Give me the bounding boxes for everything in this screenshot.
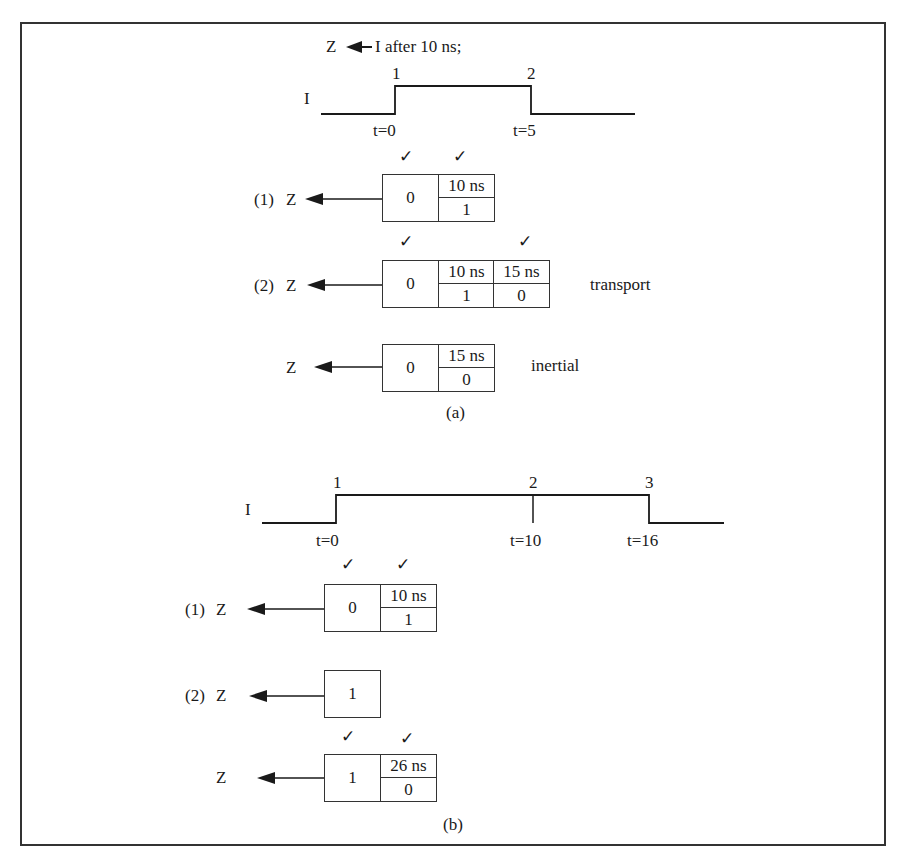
event-label-a2: 2 (527, 65, 536, 82)
transaction: 10 ns 1 (438, 260, 495, 308)
driver-prefix: (2) (254, 277, 274, 294)
driver-current-value: 1 (324, 754, 381, 802)
transaction: 15 ns 0 (438, 344, 495, 392)
driver-target: Z (286, 359, 296, 376)
transaction-value: 1 (439, 198, 494, 221)
statement-rhs: I after 10 ns; (375, 38, 461, 55)
check-icon: ✓ (341, 556, 355, 573)
driver-target: Z (216, 687, 226, 704)
event-label-b1: 1 (333, 474, 342, 491)
event-label-b3: 3 (645, 474, 654, 491)
driver-target: Z (286, 277, 296, 294)
caption-a: (a) (446, 404, 465, 421)
driver-current-value: 0 (382, 344, 439, 392)
event-time-b2: t=10 (510, 532, 541, 549)
check-icon: ✓ (399, 148, 413, 165)
diagram-lines (0, 0, 901, 862)
transaction: 10 ns 1 (438, 174, 495, 222)
transaction: 10 ns 1 (380, 584, 437, 632)
driver-current-value: 1 (324, 670, 381, 718)
transaction-time: 26 ns (381, 755, 436, 778)
driver-target: Z (286, 191, 296, 208)
check-icon: ✓ (453, 148, 467, 165)
driver-target: Z (216, 769, 226, 786)
signal-label-a: I (304, 90, 310, 107)
transaction-value: 1 (439, 284, 494, 307)
transaction: 15 ns 0 (493, 260, 550, 308)
event-label-a1: 1 (392, 65, 401, 82)
driver-target: Z (216, 601, 226, 618)
event-time-a2: t=5 (513, 122, 536, 139)
statement-arrow-icon (346, 41, 372, 53)
event-time-a1: t=0 (373, 122, 396, 139)
transaction-time: 10 ns (381, 585, 436, 608)
event-time-b3: t=16 (627, 532, 658, 549)
transaction-value: 0 (439, 368, 494, 391)
mode-label-transport: transport (590, 276, 650, 293)
signal-label-b: I (245, 501, 251, 518)
check-icon: ✓ (341, 728, 355, 745)
driver-current-value: 0 (324, 584, 381, 632)
driver-current-value: 0 (382, 260, 439, 308)
transaction: 26 ns 0 (380, 754, 437, 802)
waveform-a (321, 86, 635, 114)
transaction-time: 10 ns (439, 175, 494, 198)
transaction-value: 1 (381, 608, 436, 631)
driver-prefix: (2) (185, 687, 205, 704)
check-icon: ✓ (400, 730, 414, 747)
transaction-time: 10 ns (439, 261, 494, 284)
driver-current-value: 0 (382, 174, 439, 222)
event-label-b2: 2 (529, 474, 538, 491)
transaction-value: 0 (494, 284, 549, 307)
driver-prefix: (1) (185, 601, 205, 618)
arrows-a (305, 193, 382, 373)
check-icon: ✓ (399, 233, 413, 250)
event-time-b1: t=0 (316, 532, 339, 549)
arrows-b (247, 603, 324, 784)
caption-b: (b) (443, 816, 463, 833)
statement-lhs: Z (326, 38, 336, 55)
check-icon: ✓ (518, 233, 532, 250)
transaction-value: 0 (381, 778, 436, 801)
driver-prefix: (1) (254, 191, 274, 208)
check-icon: ✓ (396, 556, 410, 573)
transaction-time: 15 ns (494, 261, 549, 284)
transaction-time: 15 ns (439, 345, 494, 368)
mode-label-inertial: inertial (531, 357, 579, 374)
waveform-b (262, 495, 724, 523)
